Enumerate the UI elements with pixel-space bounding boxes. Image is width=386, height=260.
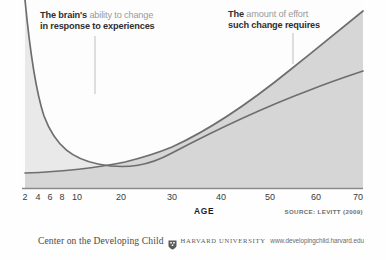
x-tick-label: 8: [59, 192, 64, 202]
footer-url: www.developingchild.harvard.edu: [270, 237, 364, 244]
x-tick-label: 10: [72, 192, 82, 202]
annotation-plasticity-bold2: in response to experiences: [40, 21, 155, 31]
chart-figure: The brain's ability to change in respons…: [0, 0, 386, 260]
annotation-plasticity-muted1: ability to change: [87, 10, 153, 20]
footer-brand: Center on the Developing Child HARVARD U…: [38, 235, 266, 246]
footer-center-name: Center on the Developing Child: [38, 235, 164, 246]
source-note: SOURCE: LEVITT (2009): [284, 208, 363, 215]
x-tick-label: 6: [47, 192, 52, 202]
annotation-effort-muted1: amount of effort: [244, 9, 308, 19]
x-tick-label: 20: [116, 192, 126, 202]
x-axis-title: AGE: [194, 206, 214, 216]
x-tick-label: 70: [353, 192, 363, 202]
x-tick-label: 4: [35, 192, 40, 202]
annotation-effort: The amount of effort such change require…: [228, 9, 320, 32]
x-tick-label: 2: [22, 192, 27, 202]
annotation-effort-line1: The amount of effort: [228, 9, 320, 20]
annotation-plasticity-line2: in response to experiences: [40, 21, 155, 32]
annotation-plasticity: The brain's ability to change in respons…: [40, 10, 155, 33]
annotation-effort-bold2: such change requires: [228, 20, 320, 30]
annotation-effort-bold1: The: [228, 9, 244, 19]
x-tick-label: 50: [265, 192, 275, 202]
x-tick-label: 30: [167, 192, 177, 202]
footer-university: HARVARD UNIVERSITY: [181, 237, 266, 244]
x-tick-label: 40: [216, 192, 226, 202]
x-tick-label: 60: [311, 192, 321, 202]
chart-canvas: [0, 0, 386, 260]
annotation-plasticity-bold1: The brain's: [40, 10, 87, 20]
annotation-plasticity-line1: The brain's ability to change: [40, 10, 155, 21]
footer: Center on the Developing Child HARVARD U…: [0, 232, 386, 254]
annotation-effort-line2: such change requires: [228, 20, 320, 31]
shield-icon: [168, 236, 177, 246]
